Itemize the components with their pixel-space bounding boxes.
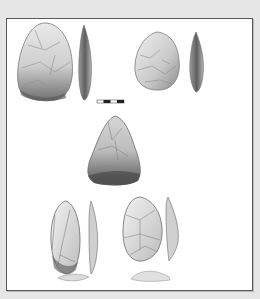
artifact-e [123,197,178,281]
artifact-a-profile [79,25,92,100]
artifact-c [88,116,140,185]
artifact-b-profile [190,32,204,92]
artifact-d-base [58,274,89,281]
artifact-e-base [131,271,170,281]
artifact-b [135,32,204,92]
artifact-d [51,201,98,281]
artifact-d-profile [89,201,98,274]
artifact-b-face [135,32,179,90]
artifact-e-profile [166,197,178,261]
artifact-plate [0,0,260,299]
artifact-a-face [18,23,73,101]
scale-bar [97,100,124,103]
artifact-a [18,23,92,101]
